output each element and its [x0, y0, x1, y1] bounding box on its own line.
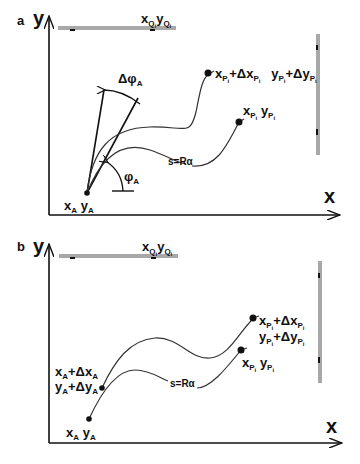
obstacle-mark: [316, 45, 318, 50]
panel-b-obstacle-q-label: xQiyQi: [142, 240, 172, 257]
panel-a-y-axis-label: y: [33, 8, 44, 28]
panel-a-arc-length-label: s=Rα: [168, 157, 193, 167]
panel-a-end-delta-label: xPi+ΔxPi yPi+ΔyPi: [215, 67, 317, 84]
panel-b-path-nominal: [89, 350, 241, 419]
obstacle-mark: [318, 357, 320, 363]
panel-a-letter: a: [17, 14, 24, 27]
panel-a-path-nominal: [87, 122, 239, 193]
panel-a-point-A: [84, 190, 90, 196]
panel-a-end-label: xPi yPi: [243, 104, 275, 121]
panel-b-y-axis-label: y: [33, 236, 44, 256]
panel-a-delta-phi-label: ΔφA: [118, 72, 142, 88]
obstacle-mark: [150, 29, 155, 31]
panel-a-path-perturbed: [87, 74, 209, 193]
panel-a-point-P-delta: [205, 70, 212, 77]
panel-b-arc-length-label: s=Rα: [170, 379, 195, 389]
panel-a: [49, 16, 340, 215]
panel-b-point-P-delta: [250, 315, 257, 322]
panel-a-phi-arc: [107, 162, 123, 191]
panel-b-point-A-delta: [99, 385, 105, 391]
panel-b-x-axis-label: x: [326, 416, 337, 436]
obstacle-mark: [318, 273, 320, 278]
panel-b-start-delta-y-label: yA+ΔyA: [55, 380, 98, 396]
panel-a-start-label: xA yA: [64, 199, 94, 215]
panel-a-obstacle-q-label: xQiyQi: [141, 12, 171, 29]
obstacle-mark: [70, 29, 75, 31]
panel-b-end-label: xPi yPi: [242, 356, 274, 373]
panel-b-point-P: [238, 347, 245, 354]
panel-a-delta-phi-arc: [104, 90, 140, 104]
obstacle-mark: [70, 257, 75, 259]
panel-b-end-delta-y-label: yPi+ΔyPi: [259, 330, 304, 347]
obstacle-mark: [316, 129, 318, 135]
panel-a-x-axis-label: x: [324, 186, 335, 206]
panel-b-start-label: xA yA: [66, 426, 96, 442]
panel-a-phi-label: φA: [124, 170, 139, 186]
panel-b-point-A: [86, 416, 92, 422]
panel-b-letter: b: [17, 240, 25, 253]
panel-a-point-P: [236, 119, 243, 126]
obstacle-mark: [151, 257, 156, 259]
